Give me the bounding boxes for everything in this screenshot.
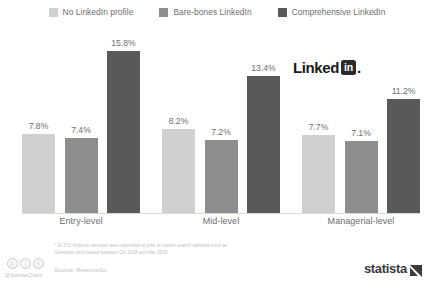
creative-commons-icons: ⓒ ⓘ ⓔ xyxy=(7,258,44,269)
legend-swatch-icon xyxy=(49,8,58,17)
bar[interactable] xyxy=(205,140,238,214)
linkedin-wordmark: Linked xyxy=(293,60,339,75)
bar[interactable] xyxy=(345,141,378,214)
chart-source: Source: ResumeGo xyxy=(54,267,107,273)
category-label-managerial-level: Managerial-level xyxy=(302,216,420,226)
statista-mark-icon xyxy=(410,263,422,275)
statista-chart: No LinkedIn profile Bare-bones LinkedIn … xyxy=(0,0,434,289)
axis-baseline xyxy=(22,213,420,214)
bar-value-label: 8.2% xyxy=(169,117,189,126)
linkedin-in-icon: in xyxy=(341,60,356,75)
linkedin-period: . xyxy=(357,60,361,75)
bar[interactable] xyxy=(22,134,55,214)
legend-swatch-icon xyxy=(159,8,168,17)
bar-wrap: 13.4% xyxy=(247,28,280,214)
bar[interactable] xyxy=(162,129,195,214)
legend-label: Comprehensive LinkedIn xyxy=(292,8,386,16)
bar-wrap: 7.7% xyxy=(302,28,335,214)
bar-groups: 7.8% 7.4% 15.8% 8.2% 7.2% xyxy=(22,28,420,214)
statista-wordmark: statista xyxy=(364,262,407,275)
plot-area: 7.8% 7.4% 15.8% 8.2% 7.2% xyxy=(22,28,420,214)
legend-item-bare-bones-linkedin[interactable]: Bare-bones LinkedIn xyxy=(159,8,251,17)
category-label-mid-level: Mid-level xyxy=(162,216,280,226)
bar-wrap: 8.2% xyxy=(162,28,195,214)
legend-label: Bare-bones LinkedIn xyxy=(173,8,251,16)
bar-value-label: 13.4% xyxy=(251,64,275,73)
bar[interactable] xyxy=(107,51,140,214)
category-label-entry-level: Entry-level xyxy=(22,216,140,226)
bar-wrap: 11.2% xyxy=(387,28,420,214)
bar-value-label: 7.2% xyxy=(211,128,231,137)
bar[interactable] xyxy=(387,99,420,214)
bar-value-label: 7.1% xyxy=(351,129,371,138)
bar-group-entry-level: 7.8% 7.4% 15.8% xyxy=(22,28,140,214)
statista-logo: statista xyxy=(364,262,422,275)
category-axis: Entry-level Mid-level Managerial-level xyxy=(22,216,420,226)
legend-item-no-linkedin-profile[interactable]: No LinkedIn profile xyxy=(49,8,134,17)
bar-value-label: 7.7% xyxy=(309,123,329,132)
bar[interactable] xyxy=(65,138,98,214)
bar-value-label: 7.4% xyxy=(71,126,91,135)
legend-item-comprehensive-linkedin[interactable]: Comprehensive LinkedIn xyxy=(278,8,386,17)
legend-label: No LinkedIn profile xyxy=(63,8,134,16)
linkedin-logo: Linked in . xyxy=(293,60,361,75)
bar-value-label: 15.8% xyxy=(111,39,135,48)
bar-value-label: 7.8% xyxy=(29,122,49,131)
cc-no-derivatives-icon: ⓔ xyxy=(33,258,44,269)
bar[interactable] xyxy=(247,76,280,214)
bar-wrap: 7.1% xyxy=(345,28,378,214)
bar-group-managerial-level: 7.7% 7.1% 11.2% xyxy=(302,28,420,214)
cc-license-icon: ⓒ xyxy=(7,258,18,269)
bar-value-label: 11.2% xyxy=(392,87,416,96)
cc-attribution-icon: ⓘ xyxy=(20,258,31,269)
bar-wrap: 7.4% xyxy=(65,28,98,214)
statista-handle: @StatistaCharts xyxy=(5,272,42,278)
bar-wrap: 7.2% xyxy=(205,28,238,214)
legend-swatch-icon xyxy=(278,8,287,17)
bar-wrap: 15.8% xyxy=(107,28,140,214)
bar-wrap: 7.8% xyxy=(22,28,55,214)
chart-footnote: * 24,570 fictitious resumes were submitt… xyxy=(54,243,234,257)
bar[interactable] xyxy=(302,135,335,214)
bar-group-mid-level: 8.2% 7.2% 13.4% xyxy=(162,28,280,214)
chart-legend: No LinkedIn profile Bare-bones LinkedIn … xyxy=(0,8,434,17)
